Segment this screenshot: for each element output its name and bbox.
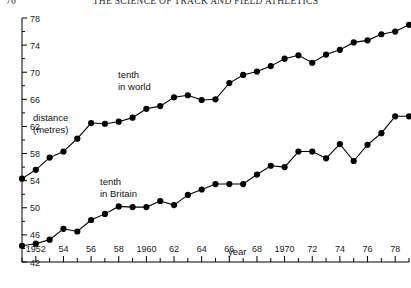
- x-tick-label: 1960: [136, 244, 156, 254]
- data-point: [406, 113, 411, 119]
- y-tick-label: 50: [30, 203, 40, 213]
- y-axis-tick-labels: 42465054586266707478: [30, 14, 40, 268]
- data-point: [185, 192, 191, 198]
- data-point: [337, 141, 343, 147]
- data-point: [171, 94, 177, 100]
- running-head-title: THE SCIENCE OF TRACK AND FIELD ATHLETICS: [0, 0, 411, 6]
- x-tick-label: 74: [335, 244, 345, 254]
- data-point: [19, 243, 25, 249]
- data-point: [47, 237, 53, 243]
- y-tick-label: 70: [30, 68, 40, 78]
- y-tick-label: 54: [30, 176, 40, 186]
- data-point: [406, 22, 411, 28]
- data-point: [143, 204, 149, 210]
- data-point: [157, 198, 163, 204]
- data-point: [171, 202, 177, 208]
- data-point: [60, 226, 66, 232]
- data-point: [378, 31, 384, 37]
- line-chart: 42465054586266707478 1952545658196062646…: [0, 10, 411, 288]
- data-point: [240, 181, 246, 187]
- series-tenth-in-world: [19, 22, 411, 182]
- data-point: [364, 37, 370, 43]
- y-axis-label-line1: distance: [33, 112, 68, 123]
- series-label-world-line1: tenth: [118, 69, 139, 80]
- x-tick-label: 76: [363, 244, 373, 254]
- data-point: [226, 181, 232, 187]
- x-tick-label: 72: [307, 244, 317, 254]
- y-tick-label: 58: [30, 149, 40, 159]
- series-tenth-in-britain: [19, 113, 411, 249]
- data-point: [74, 136, 80, 142]
- data-point: [392, 113, 398, 119]
- data-point: [295, 52, 301, 58]
- data-point: [88, 217, 94, 223]
- data-point: [143, 106, 149, 112]
- data-point: [33, 241, 39, 247]
- data-point: [185, 92, 191, 98]
- x-tick-label: 68: [252, 244, 262, 254]
- data-point: [19, 176, 25, 182]
- data-point: [212, 96, 218, 102]
- data-point: [378, 130, 384, 136]
- x-axis-label: year: [228, 246, 246, 257]
- x-axis-tick-labels: 1952545658196062646668197072747678: [26, 244, 400, 254]
- data-point: [364, 142, 370, 148]
- x-tick-label: 78: [390, 244, 400, 254]
- y-tick-label: 74: [30, 41, 40, 51]
- x-tick-label: 56: [86, 244, 96, 254]
- data-point: [102, 121, 108, 127]
- data-point: [337, 47, 343, 53]
- data-point: [268, 63, 274, 69]
- data-point: [33, 167, 39, 173]
- y-tick-label: 66: [30, 95, 40, 105]
- figure-page: 76 THE SCIENCE OF TRACK AND FIELD ATHLET…: [0, 0, 411, 288]
- data-point: [240, 72, 246, 78]
- data-point: [309, 60, 315, 66]
- data-point: [212, 181, 218, 187]
- data-point: [199, 97, 205, 103]
- y-tick-label: 46: [30, 230, 40, 240]
- data-point: [351, 158, 357, 164]
- x-tick-label: 1970: [275, 244, 295, 254]
- data-point: [351, 39, 357, 45]
- data-point: [116, 119, 122, 125]
- data-point: [323, 52, 329, 58]
- data-point: [392, 28, 398, 34]
- data-point: [102, 211, 108, 217]
- data-point: [254, 171, 260, 177]
- x-tick-label: 62: [169, 244, 179, 254]
- data-point: [116, 203, 122, 209]
- x-tick-label: 58: [114, 244, 124, 254]
- series-label-britain-line1: tenth: [100, 176, 121, 187]
- data-point: [88, 120, 94, 126]
- x-axis-ticks: [22, 256, 409, 262]
- data-point: [47, 155, 53, 161]
- data-point: [60, 148, 66, 154]
- data-point: [282, 56, 288, 62]
- data-point: [157, 103, 163, 109]
- y-tick-label: 42: [30, 258, 40, 268]
- data-point: [199, 186, 205, 192]
- running-head: 76 THE SCIENCE OF TRACK AND FIELD ATHLET…: [0, 0, 411, 10]
- y-axis-label-line2: (metres): [33, 124, 68, 135]
- data-point: [282, 164, 288, 170]
- y-tick-label: 78: [30, 14, 40, 24]
- data-point: [295, 148, 301, 154]
- chart-canvas: 42465054586266707478 1952545658196062646…: [0, 10, 411, 288]
- series-label-britain-line2: in Britain: [100, 188, 137, 199]
- data-point: [323, 155, 329, 161]
- y-axis-ticks: [22, 18, 27, 262]
- data-point: [226, 80, 232, 86]
- data-point: [309, 148, 315, 154]
- data-point: [254, 68, 260, 74]
- x-tick-label: 64: [197, 244, 207, 254]
- data-point: [129, 115, 135, 121]
- series-label-world-line2: in world: [118, 81, 151, 92]
- data-point: [74, 228, 80, 234]
- data-point: [268, 163, 274, 169]
- x-tick-label: 54: [58, 244, 68, 254]
- data-point: [129, 204, 135, 210]
